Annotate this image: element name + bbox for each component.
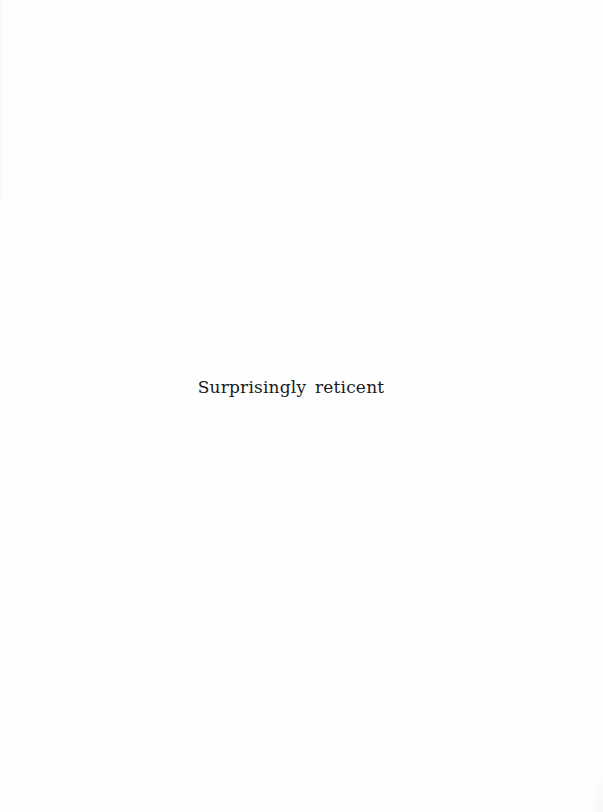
book-page: Surprisingly reticent xyxy=(0,0,603,812)
centered-page-text: Surprisingly reticent xyxy=(0,376,582,398)
scan-artifact-left-edge xyxy=(0,0,4,200)
scan-artifact-bottom-right xyxy=(589,772,603,812)
